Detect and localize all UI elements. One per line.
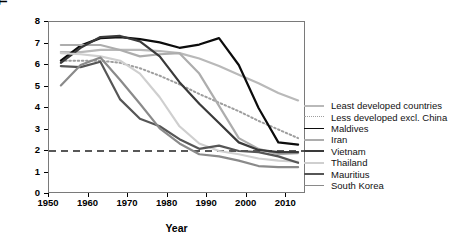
- legend-swatch-maldives: [303, 123, 325, 134]
- legend-label-thailand: Thailand: [331, 157, 367, 168]
- x-tick-label: 2000: [226, 197, 266, 208]
- legend-swatch-mauritius: [303, 169, 325, 180]
- series-canvas: [49, 22, 306, 194]
- legend-item-thailand[interactable]: Thailand: [303, 157, 469, 168]
- legend-label-iran: Iran: [331, 134, 347, 145]
- y-tick-label: 8: [14, 15, 40, 26]
- y-tick-label: 2: [14, 144, 40, 155]
- y-tick-label: 7: [14, 37, 40, 48]
- legend-swatch-iran: [303, 134, 325, 145]
- legend-swatch-south-korea: [303, 180, 325, 191]
- x-tick-label: 1970: [107, 197, 147, 208]
- x-tick-label: 1960: [68, 197, 108, 208]
- y-tick-label: 3: [14, 123, 40, 134]
- legend-swatch-less-developed-excl-china: [303, 112, 325, 123]
- y-tick-label: 5: [14, 80, 40, 91]
- legend-item-vietnam[interactable]: Vietnam: [303, 146, 469, 157]
- y-tick-label: 6: [14, 58, 40, 69]
- y-tick-label: 4: [14, 101, 40, 112]
- legend-label-maldives: Maldives: [331, 123, 369, 134]
- legend-item-mauritius[interactable]: Mauritius: [303, 168, 469, 179]
- y-axis-title: TFR (births per woman): [0, 0, 11, 27]
- legend-label-mauritius: Mauritius: [331, 169, 370, 180]
- legend-label-least-developed-countries: Least developed countries: [331, 100, 442, 111]
- chart-legend: Least developed countriesLess developed …: [303, 100, 469, 191]
- legend-item-maldives[interactable]: Maldives: [303, 123, 469, 134]
- y-tick-label: 1: [14, 166, 40, 177]
- plot-area: [48, 21, 305, 193]
- x-tick-label: 1950: [28, 197, 68, 208]
- legend-label-less-developed-excl-china: Less developed excl. China: [331, 112, 447, 123]
- legend-item-south-korea[interactable]: South Korea: [303, 180, 469, 191]
- x-tick-label: 1980: [147, 197, 187, 208]
- legend-item-least-developed-countries[interactable]: Least developed countries: [303, 100, 469, 111]
- x-tick-label: 2010: [265, 197, 305, 208]
- series-line-least-developed-countries: [61, 50, 298, 101]
- x-axis-title: Year: [48, 222, 305, 234]
- x-tick-label: 1990: [186, 197, 226, 208]
- legend-swatch-vietnam: [303, 146, 325, 157]
- legend-swatch-least-developed-countries: [303, 100, 325, 111]
- legend-item-less-developed-excl-china[interactable]: Less developed excl. China: [303, 111, 469, 122]
- legend-item-iran[interactable]: Iran: [303, 134, 469, 145]
- chart-figure: TFR (births per woman) 012345678 1950196…: [0, 0, 469, 246]
- legend-swatch-thailand: [303, 157, 325, 168]
- legend-label-vietnam: Vietnam: [331, 146, 366, 157]
- series-line-thailand: [61, 53, 298, 162]
- series-line-mauritius: [61, 62, 298, 163]
- legend-label-south-korea: South Korea: [331, 180, 384, 191]
